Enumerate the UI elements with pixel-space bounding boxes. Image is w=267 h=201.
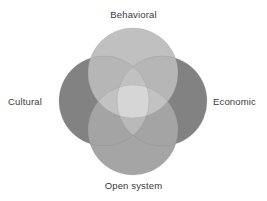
venn-label-economic: Economic bbox=[213, 96, 267, 107]
venn-diagram: Behavioral Cultural Economic Open system bbox=[0, 0, 267, 201]
venn-label-behavioral: Behavioral bbox=[0, 9, 267, 20]
venn-label-cultural: Cultural bbox=[8, 96, 56, 107]
venn-label-open-system: Open system bbox=[0, 180, 267, 191]
